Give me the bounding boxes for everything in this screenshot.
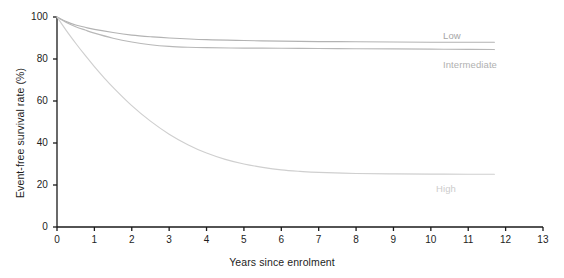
x-tick-label: 6 [266, 235, 296, 245]
series-label-high: High [436, 184, 456, 194]
x-tick-label: 7 [304, 235, 334, 245]
series-label-intermediate: Intermediate [443, 60, 497, 70]
x-axis-title: Years since enrolment [0, 256, 564, 268]
y-tick-label: 100 [17, 12, 48, 22]
x-tick-label: 11 [453, 235, 483, 245]
x-tick-label: 1 [79, 235, 109, 245]
x-tick-label: 8 [341, 235, 371, 245]
series-lines [57, 17, 494, 174]
x-tick-label: 10 [416, 235, 446, 245]
x-tick-label: 13 [528, 235, 558, 245]
y-tick-label: 0 [17, 222, 48, 232]
x-tick-label: 9 [378, 235, 408, 245]
x-tick-label: 4 [192, 235, 222, 245]
series-label-low: Low [443, 31, 461, 41]
x-tick-label: 0 [42, 235, 72, 245]
x-tick-label: 5 [229, 235, 259, 245]
series-line-intermediate [57, 17, 494, 50]
y-axis-title: Event-free survival rate (%) [14, 68, 26, 198]
chart-figure: 020406080100 012345678910111213 Event-fr… [0, 0, 564, 278]
x-tick-label: 3 [154, 235, 184, 245]
x-tick-label: 2 [117, 235, 147, 245]
series-line-low [57, 17, 494, 42]
y-tick-label: 80 [17, 54, 48, 64]
x-tick-label: 12 [491, 235, 521, 245]
